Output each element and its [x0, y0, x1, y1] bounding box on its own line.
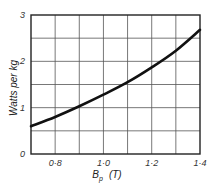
data-series-line [31, 30, 200, 126]
y-axis-ticks: 0123 [19, 10, 25, 159]
y-tick-label: 1 [20, 103, 25, 113]
y-tick-label: 3 [20, 10, 25, 20]
y-axis-title: Watts per kg [8, 60, 19, 116]
x-axis-title: Bp(T) [92, 169, 121, 183]
y-tick-label: 2 [19, 56, 25, 66]
x-tick-label: 0·8 [49, 158, 62, 168]
grid-lines [31, 15, 200, 154]
x-tick-label: 1·0 [97, 158, 110, 168]
chart: 0·81·01·21·4 0123 Bp(T) Watts per kg [0, 0, 215, 186]
x-tick-label: 1·2 [145, 158, 158, 168]
x-axis-ticks: 0·81·01·21·4 [49, 158, 207, 168]
y-tick-label: 0 [20, 149, 25, 159]
x-tick-label: 1·4 [193, 158, 206, 168]
